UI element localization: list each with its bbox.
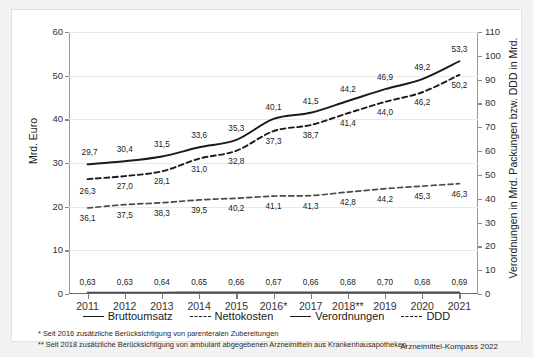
data-label: 27,0 [117,183,133,191]
x-axis-tick-mark [162,294,163,299]
x-axis-tick-mark [459,294,460,299]
series-line-nettokosten [88,75,460,179]
data-label: 38,3 [154,210,170,218]
y-axis-right-tick-label: 20 [485,241,496,251]
y-axis-right-title: Verordnungen in Mrd. Packungen bzw. DDD … [506,22,520,294]
legend-label: Nettokosten [215,310,274,322]
y-axis-right-tick-label: 60 [485,146,496,156]
data-label: 30,4 [117,146,133,154]
y-axis-left-tick-label: 50 [52,71,63,81]
y-axis-right-tick-mark [478,199,482,200]
data-label: 41,4 [340,120,356,128]
data-label: 0,68 [340,279,356,287]
data-label: 0,65 [191,279,207,287]
data-label: 40,1 [266,104,282,112]
footnote-row: * Seit 2016 zusätzliche Berücksichtigung… [38,329,406,340]
legend-item[interactable]: Bruttoumsatz [83,310,173,322]
y-axis-right-tick-label: 10 [485,265,496,275]
y-axis-right-tick-label: 90 [485,75,496,85]
data-label: 0,67 [266,279,282,287]
data-label: 33,6 [191,132,207,140]
data-label: 0,68 [414,279,430,287]
legend-swatch-dashed [190,316,211,317]
data-label: 0,63 [117,279,133,287]
y-axis-right-tick-mark [478,175,482,176]
x-axis-tick-mark [385,294,386,299]
y-axis-left-title-text: Mrd. Euro [27,118,39,164]
x-axis-tick-mark [236,294,237,299]
y-axis-left-tick-label: 0 [58,289,63,299]
legend-label: Bruttoumsatz [108,310,173,322]
y-axis-left-tick-label: 40 [52,114,63,124]
data-label: 49,2 [414,64,430,72]
data-label: 44,2 [340,86,356,94]
y-axis-right-tick-mark [478,223,482,224]
data-label: 37,3 [266,138,282,146]
y-axis-right-tick-mark [478,56,482,57]
data-label: 42,8 [340,199,356,207]
y-axis-right-tick-label: 70 [485,122,496,132]
y-axis-right-tick-mark [478,127,482,128]
data-label: 31,0 [191,166,207,174]
y-axis-right-tick-mark [478,151,482,152]
y-axis-left-tick-label: 20 [52,202,63,212]
legend-item[interactable]: Nettokosten [190,310,274,322]
y-axis-right-tick-label: 30 [485,218,496,228]
data-label: 46,2 [414,99,430,107]
data-label: 32,8 [228,158,244,166]
y-axis-right-tick-label: 80 [485,98,496,108]
x-axis-line [69,293,478,294]
legend-item[interactable]: Verordnungen [290,310,384,322]
y-axis-right-tick-label: 50 [485,170,496,180]
data-label: 41,3 [303,203,319,211]
series-line-bruttoumsatz [88,61,460,164]
data-label: 26,3 [80,188,96,196]
x-axis-tick-mark [88,294,89,299]
data-label: 31,5 [154,141,170,149]
data-label: 46,9 [377,74,393,82]
chart-card: Mrd. Euro Verordnungen in Mrd. Packungen… [11,9,522,342]
chart-figure: Mrd. Euro Verordnungen in Mrd. Packungen… [0,0,533,357]
data-label: 53,3 [451,46,467,54]
legend-swatch-solid [290,316,311,317]
data-label: 41,5 [303,98,319,106]
legend-swatch-solid [83,316,104,317]
y-axis-left-tick-label: 10 [52,245,63,255]
y-axis-right-tick-label: 0 [485,289,490,299]
data-label: 29,7 [82,149,98,157]
data-label: 46,3 [451,191,467,199]
data-label: 0,66 [303,279,319,287]
y-axis-left-title: Mrd. Euro [26,10,40,272]
chart-legend: BruttoumsatzNettokostenVerordnungenDDD [12,310,521,322]
x-axis-tick-mark [422,294,423,299]
data-label: 45,3 [414,193,430,201]
y-axis-left-tick-label: 60 [52,27,63,37]
data-label: 39,5 [191,207,207,215]
legend-item[interactable]: DDD [401,310,450,322]
y-axis-right-tick-mark [478,32,482,33]
legend-label: Verordnungen [315,310,384,322]
data-label: 50,2 [451,82,467,90]
legend-swatch-dashed [401,316,422,317]
data-label: 40,2 [228,205,244,213]
data-label: 37,5 [117,212,133,220]
data-label: 0,64 [154,279,170,287]
x-axis-tick-mark [311,294,312,299]
data-label: 0,70 [377,279,393,287]
y-axis-right-tick-mark [478,80,482,81]
legend-label: DDD [426,310,450,322]
data-label: 38,7 [303,132,319,140]
data-label: 44,2 [377,196,393,204]
data-label: 0,63 [80,279,96,287]
data-label: 28,1 [154,178,170,186]
plot-area: 0102030405060 0102030405060708090100110 … [69,32,478,294]
x-axis-tick-mark [199,294,200,299]
footnote-row: ** Seit 2018 zusätzliche Berücksichtigun… [38,340,406,351]
y-axis-left-tick-mark [65,294,69,295]
y-axis-right-tick-label: 40 [485,194,496,204]
data-label: 36,1 [80,215,96,223]
y-axis-right-tick-label: 100 [485,51,501,61]
y-axis-right-tick-mark [478,294,482,295]
source-credit: Arzneimittel-Kompass 2022 [400,342,498,351]
y-axis-right-tick-label: 110 [485,27,500,37]
